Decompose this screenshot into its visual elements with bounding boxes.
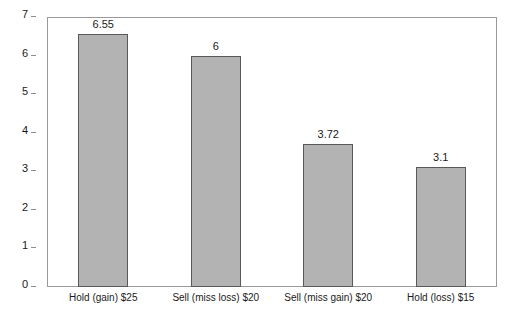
y-axis-tick-mark	[31, 132, 36, 133]
bar[interactable]	[191, 56, 241, 287]
y-axis-tick-label: 1	[22, 240, 28, 251]
y-axis-tick-mark	[31, 286, 36, 287]
bar-value-label: 3.1	[401, 152, 481, 163]
y-axis-tick-label: 5	[22, 86, 28, 97]
y-axis-tick-mark	[31, 209, 36, 210]
y-axis: 76543210	[0, 0, 47, 321]
y-axis-tick-mark	[31, 93, 36, 94]
bar[interactable]	[303, 144, 353, 287]
y-axis-tick-mark	[31, 55, 36, 56]
y-axis-tick-label: 3	[22, 163, 28, 174]
bar[interactable]	[416, 167, 466, 287]
y-axis-tick-mark	[31, 170, 36, 171]
y-axis-tick-mark	[31, 16, 36, 17]
bar-value-label: 3.72	[288, 129, 368, 140]
y-axis-tick-mark	[31, 247, 36, 248]
y-axis-tick-label: 2	[22, 202, 28, 213]
y-axis-tick-label: 0	[22, 279, 28, 290]
y-axis-tick-label: 4	[22, 125, 28, 136]
bar-value-label: 6.55	[63, 19, 143, 30]
y-axis-tick-label: 7	[22, 9, 28, 20]
bar-chart: 76543210 6.55Hold (gain) $256Sell (miss …	[0, 0, 509, 321]
bar-value-label: 6	[176, 41, 256, 52]
x-axis-category-label: Hold (loss) $15	[371, 292, 509, 304]
bar[interactable]	[78, 34, 128, 287]
y-axis-tick-label: 6	[22, 48, 28, 59]
